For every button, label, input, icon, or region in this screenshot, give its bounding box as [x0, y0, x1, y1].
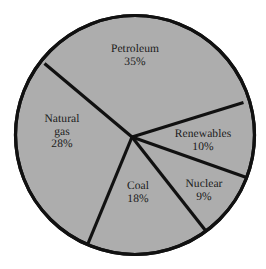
pie-chart: Petroleum 35% Natural gas 28% Renewables… [0, 0, 266, 269]
pie-chart-svg [0, 0, 266, 269]
